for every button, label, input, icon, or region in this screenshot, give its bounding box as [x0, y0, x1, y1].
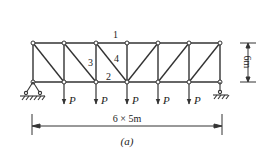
load-label: P — [100, 94, 108, 106]
member-label-3: 3 — [88, 57, 93, 68]
load-label: P — [162, 94, 170, 106]
member-label-4: 4 — [114, 53, 119, 64]
roller-support-icon — [213, 82, 229, 99]
truss-diagram: P P P P P 1 2 3 4 6m 6 × 5m (a) — [0, 0, 266, 154]
load-label: P — [193, 94, 201, 106]
load-label: P — [68, 94, 76, 106]
load-label: P — [131, 94, 139, 106]
member-label-1: 1 — [113, 29, 118, 40]
figure-caption: (a) — [121, 135, 134, 148]
pinned-support-icon — [20, 82, 45, 100]
member-label-2: 2 — [106, 71, 111, 82]
span-label: 6 × 5m — [113, 113, 142, 124]
height-label: 6m — [242, 56, 253, 69]
load-arrows — [64, 84, 189, 104]
